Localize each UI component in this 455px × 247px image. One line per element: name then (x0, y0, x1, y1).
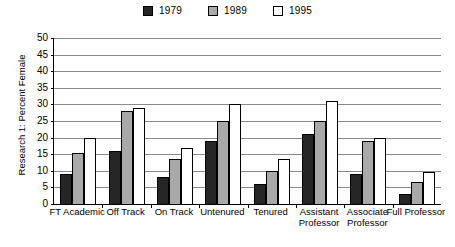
y-tick-label: 5 (42, 182, 48, 192)
y-tick-mark-0 (51, 204, 54, 205)
bar-1995-assistant-professor (326, 101, 338, 204)
plot-area: 05101520253035404550 (53, 38, 441, 204)
bar-1995-untenured (229, 104, 241, 204)
y-tick-label: 10 (37, 166, 48, 176)
bar-1989-full-professor (411, 182, 423, 204)
bar-1995-full-professor (423, 172, 435, 204)
bar-group-1 (102, 38, 150, 204)
bar-1979-full-professor (399, 194, 411, 204)
bar-group-2 (151, 38, 199, 204)
bar-1995-associate-professor (374, 138, 386, 204)
legend-label: 1979 (159, 6, 182, 16)
legend-item-1979: 1979 (143, 6, 182, 16)
bar-group-3 (199, 38, 247, 204)
bar-1989-tenured (266, 171, 278, 204)
bar-1989-untenured (217, 121, 229, 204)
legend-label: 1995 (289, 6, 312, 16)
bar-1995-off-track (133, 108, 145, 204)
legend-item-1995: 1995 (273, 6, 312, 16)
x-axis-label-7: Full Professor (386, 206, 446, 217)
bar-group-5 (296, 38, 344, 204)
legend-item-1989: 1989 (208, 6, 247, 16)
bar-1979-assistant-professor (302, 134, 314, 204)
y-tick-label: 20 (37, 133, 48, 143)
bar-1989-on-track (169, 159, 181, 204)
bar-group-6 (344, 38, 392, 204)
bar-chart: 197919891995 Research 1: Percent Female … (0, 0, 455, 247)
bar-1979-tenured (254, 184, 266, 204)
legend-swatch-1995 (273, 6, 283, 16)
x-axis-labels: FT AcademicOff TrackOn TrackUntenuredTen… (53, 206, 440, 246)
chart-legend: 197919891995 (0, 6, 455, 16)
bar-1989-off-track (121, 111, 133, 204)
bar-group-4 (248, 38, 296, 204)
bar-1979-off-track (109, 151, 121, 204)
bar-1989-assistant-professor (314, 121, 326, 204)
bar-group-7 (393, 38, 441, 204)
bar-1979-on-track (157, 177, 169, 204)
bar-1995-ft-academic (84, 138, 96, 204)
bar-1989-ft-academic (72, 153, 84, 204)
y-tick-label: 30 (37, 99, 48, 109)
legend-label: 1989 (224, 6, 247, 16)
y-tick-label: 50 (37, 33, 48, 43)
bar-1979-ft-academic (60, 174, 72, 204)
y-tick-label: 45 (37, 50, 48, 60)
y-tick-label: 40 (37, 66, 48, 76)
legend-swatch-1989 (208, 6, 218, 16)
bar-1989-associate-professor (362, 141, 374, 204)
y-tick-label: 35 (37, 83, 48, 93)
legend-swatch-1979 (143, 6, 153, 16)
bar-1979-untenured (205, 141, 217, 204)
y-axis-title: Research 1: Percent Female (17, 30, 27, 200)
bars-layer (54, 38, 441, 204)
bar-1979-associate-professor (350, 174, 362, 204)
bar-1995-tenured (278, 159, 290, 204)
bar-group-0 (54, 38, 102, 204)
y-tick-label: 25 (37, 116, 48, 126)
bar-1995-on-track (181, 148, 193, 204)
y-tick-label: 15 (37, 149, 48, 159)
